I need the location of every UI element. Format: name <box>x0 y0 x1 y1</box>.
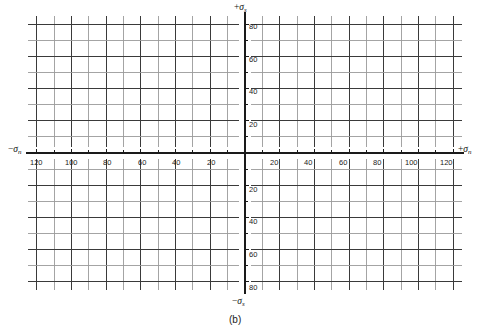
y-tick-label: 60 <box>249 56 257 64</box>
x-tick-label: 20 <box>207 159 215 167</box>
x-tick-label: 80 <box>103 159 111 167</box>
figure-caption: (b) <box>229 315 241 325</box>
x-axis-negative-label: −σn <box>8 145 22 156</box>
y-tick-label: 40 <box>249 88 257 96</box>
y-axis-negative-label: −σs <box>232 297 245 308</box>
y-tick-label: 40 <box>249 218 257 226</box>
x-tick-label: 120 <box>440 159 453 167</box>
x-tick-label: 20 <box>270 159 278 167</box>
x-tick-label: 60 <box>339 159 347 167</box>
x-tick-label: 40 <box>172 159 180 167</box>
x-tick-label: 120 <box>30 159 43 167</box>
x-tick-label: 80 <box>373 159 381 167</box>
x-tick-label: 100 <box>65 159 78 167</box>
subscript-s: s <box>242 300 245 308</box>
x-tick-label: 60 <box>138 159 146 167</box>
y-tick-label: 80 <box>249 23 257 31</box>
y-tick-label: 80 <box>249 284 257 292</box>
x-tick-label: 40 <box>304 159 312 167</box>
subscript-n: n <box>18 148 22 156</box>
stress-graph-figure: 120 100 80 60 40 20 20 40 60 80 100 120 … <box>0 0 486 332</box>
subscript-n: n <box>468 148 472 156</box>
subscript-s: s <box>244 6 247 14</box>
x-axis-positive-label: +σn <box>458 145 472 156</box>
y-tick-label: 60 <box>249 251 257 259</box>
x-tick-label: 100 <box>405 159 418 167</box>
y-tick-label: 20 <box>249 121 257 129</box>
y-tick-label: 20 <box>249 186 257 194</box>
y-axis-positive-label: +σs <box>234 3 247 14</box>
